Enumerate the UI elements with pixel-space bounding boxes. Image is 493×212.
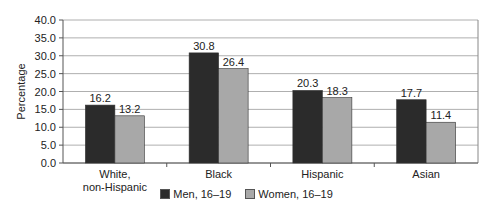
y-tick-label: 25.0 — [35, 68, 56, 80]
x-category-label: Black — [205, 168, 232, 180]
bar — [115, 116, 145, 163]
bar-chart: 0.05.010.015.020.025.030.035.040.0Percen… — [0, 0, 493, 212]
bar-value-label: 16.2 — [89, 92, 110, 104]
bar — [426, 122, 456, 163]
legend: Men, 16–19 Women, 16–19 — [0, 188, 493, 200]
bar — [293, 90, 323, 163]
bar — [397, 100, 427, 163]
x-category-label: White, — [99, 168, 130, 180]
x-category-label: Hispanic — [301, 168, 344, 180]
bar-value-label: 13.2 — [119, 103, 140, 115]
legend-item-men: Men, 16–19 — [160, 188, 231, 200]
legend-label-men: Men, 16–19 — [173, 188, 231, 200]
y-tick-label: 20.0 — [35, 86, 56, 98]
bar — [219, 69, 249, 163]
bar-value-label: 30.8 — [193, 40, 214, 52]
bar-value-label: 18.3 — [326, 85, 347, 97]
y-tick-label: 35.0 — [35, 32, 56, 44]
bar-value-label: 11.4 — [431, 109, 452, 121]
y-tick-label: 10.0 — [35, 121, 56, 133]
bar — [322, 98, 352, 163]
bar-value-label: 26.4 — [223, 56, 244, 68]
bar-value-label: 17.7 — [401, 87, 422, 99]
legend-item-women: Women, 16–19 — [245, 188, 332, 200]
y-tick-label: 40.0 — [35, 14, 56, 26]
y-tick-label: 0.0 — [41, 157, 56, 169]
bar — [189, 53, 219, 163]
y-tick-label: 5.0 — [41, 139, 56, 151]
legend-swatch-women — [245, 189, 255, 199]
y-axis-label: Percentage — [15, 63, 27, 119]
bar — [85, 105, 115, 163]
bar-value-label: 20.3 — [297, 77, 318, 89]
x-category-label: Asian — [412, 168, 440, 180]
y-tick-label: 15.0 — [35, 103, 56, 115]
y-tick-label: 30.0 — [35, 50, 56, 62]
legend-swatch-men — [160, 189, 170, 199]
legend-label-women: Women, 16–19 — [258, 188, 332, 200]
